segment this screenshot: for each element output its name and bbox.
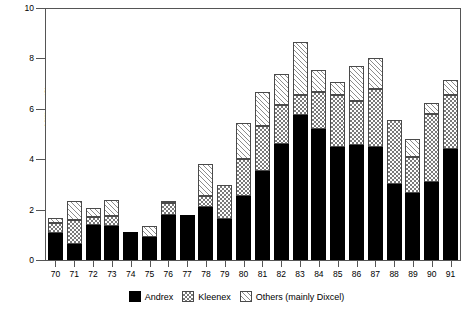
bar-segment-kleenex	[104, 216, 119, 226]
y-axis-tick-label: 0	[12, 256, 34, 264]
bar-segment-andrex	[443, 149, 458, 260]
bar-segment-andrex	[405, 193, 420, 260]
bar-segment-others	[368, 58, 383, 88]
bar-segment-others	[86, 208, 101, 218]
bar-87	[368, 58, 383, 260]
y-axis-tick-label: 10	[12, 4, 34, 12]
legend-item-andrex[interactable]: Andrex	[129, 291, 174, 302]
bar-segment-others	[274, 74, 289, 106]
x-axis-tick-label-91: 91	[440, 269, 462, 279]
y-axis-tick	[36, 8, 45, 9]
bar-88	[387, 120, 402, 260]
x-axis-tick	[338, 261, 339, 267]
legend-item-kleenex[interactable]: Kleenex	[182, 291, 231, 302]
legend-item-others[interactable]: Others (mainly Dixcel)	[240, 291, 345, 302]
y-axis-tick	[36, 159, 45, 160]
bar-segment-kleenex	[217, 185, 232, 219]
bar-segment-andrex	[161, 215, 176, 260]
bar-77	[180, 215, 195, 260]
x-axis-tick	[281, 261, 282, 267]
bar-segment-andrex	[274, 144, 289, 260]
bar-segment-others	[67, 201, 82, 221]
legend-label: Andrex	[145, 292, 174, 302]
y-axis-tick	[36, 260, 45, 261]
bar-79	[217, 185, 232, 260]
bar-segment-others	[104, 200, 119, 216]
x-axis-tick	[262, 261, 263, 267]
bar-segment-others	[236, 123, 251, 160]
bar-segment-andrex	[236, 196, 251, 260]
chart-legend: AndrexKleenexOthers (mainly Dixcel)	[0, 291, 473, 302]
bar-segment-andrex	[368, 147, 383, 260]
bar-segment-others	[198, 164, 213, 196]
bar-segment-andrex	[142, 237, 157, 260]
bar-segment-andrex	[255, 171, 270, 260]
bar-segment-kleenex	[274, 105, 289, 144]
bar-89	[405, 139, 420, 260]
bar-segment-andrex	[180, 215, 195, 260]
bar-78	[198, 164, 213, 260]
bar-segment-others	[424, 103, 439, 114]
bar-73	[104, 200, 119, 260]
chart-container: Millions (£) 0246810 7071727374757677787…	[0, 0, 473, 318]
y-axis-tick-label: 8	[12, 54, 34, 62]
y-axis-tick	[36, 109, 45, 110]
bar-segment-andrex	[86, 225, 101, 260]
legend-label: Others (mainly Dixcel)	[256, 292, 345, 302]
bar-83	[293, 42, 308, 260]
bar-segment-kleenex	[311, 92, 326, 129]
x-axis-tick	[150, 261, 151, 267]
bar-segment-kleenex	[86, 217, 101, 225]
bar-segment-kleenex	[236, 159, 251, 196]
x-axis-tick	[55, 261, 56, 267]
bar-segment-andrex	[424, 182, 439, 260]
x-axis-tick	[244, 261, 245, 267]
bar-74	[123, 232, 138, 260]
bar-segment-kleenex	[424, 114, 439, 182]
bar-segment-andrex	[198, 207, 213, 260]
x-axis-tick	[375, 261, 376, 267]
bar-84	[311, 70, 326, 260]
bar-segment-others	[405, 139, 420, 157]
bar-segment-kleenex	[48, 223, 63, 232]
x-axis-tick	[112, 261, 113, 267]
legend-swatch-kleenex-icon	[182, 291, 194, 302]
bar-segment-kleenex	[330, 95, 345, 147]
y-axis-tick	[36, 58, 45, 59]
x-axis-tick	[432, 261, 433, 267]
legend-swatch-andrex-icon	[129, 291, 141, 302]
x-axis-tick	[357, 261, 358, 267]
y-axis-tick-label: 4	[12, 155, 34, 163]
bar-86	[349, 66, 364, 260]
bar-segment-andrex	[217, 219, 232, 260]
bar-segment-andrex	[123, 232, 138, 260]
y-axis-tick-label: 2	[12, 206, 34, 214]
legend-label: Kleenex	[198, 292, 231, 302]
bar-segment-others	[330, 82, 345, 95]
bar-segment-andrex	[67, 244, 82, 260]
bar-segment-kleenex	[443, 95, 458, 149]
x-axis-tick	[131, 261, 132, 267]
bar-75	[142, 226, 157, 260]
bar-70	[48, 218, 63, 260]
bar-segment-kleenex	[198, 196, 213, 207]
x-axis-tick	[300, 261, 301, 267]
bar-segment-kleenex	[349, 101, 364, 145]
bar-segment-others	[255, 92, 270, 126]
x-axis-tick	[413, 261, 414, 267]
bar-72	[86, 208, 101, 260]
bar-segment-others	[349, 66, 364, 101]
bar-segment-kleenex	[161, 203, 176, 214]
bar-segment-andrex	[349, 145, 364, 260]
bar-80	[236, 123, 251, 260]
bar-segment-kleenex	[293, 95, 308, 115]
bar-segment-kleenex	[67, 220, 82, 244]
bar-segment-others	[142, 226, 157, 237]
x-axis-tick	[93, 261, 94, 267]
bar-segment-kleenex	[255, 126, 270, 170]
legend-swatch-others-icon	[240, 291, 252, 302]
bar-71	[67, 201, 82, 260]
x-axis-tick	[319, 261, 320, 267]
x-axis-tick	[168, 261, 169, 267]
bar-segment-kleenex	[405, 157, 420, 194]
